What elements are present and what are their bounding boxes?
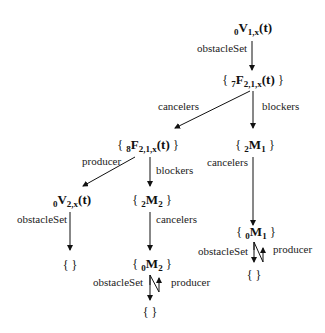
edge-m2_0-producer xyxy=(150,275,159,292)
subscript: 2,1,x xyxy=(244,79,262,89)
symbol: M xyxy=(249,137,261,152)
node-f7: { 7F2,1,x(t) } xyxy=(222,72,283,89)
label-f8-m2: blockers xyxy=(156,164,193,176)
empty-set: { } xyxy=(247,268,262,282)
brace-open: { xyxy=(132,257,138,271)
empty-set: { } xyxy=(63,258,78,272)
label-m2_0-producer: producer xyxy=(171,276,210,288)
node-m2-0: { 0M2 } xyxy=(132,256,171,273)
brace-close: } xyxy=(173,138,179,152)
node-m1-0: { 0M1 } xyxy=(236,224,275,241)
label-v2-empty: obstacleSet xyxy=(17,213,67,225)
suffix: (t) xyxy=(157,137,170,152)
symbol: M xyxy=(250,224,262,239)
edge-m1_0-producer xyxy=(254,242,263,262)
subscript: 2 xyxy=(158,199,163,209)
label-f8-v2: producer xyxy=(82,155,121,167)
label-m1_0-producer: producer xyxy=(273,243,312,255)
symbol: V xyxy=(57,192,66,207)
brace-open: { xyxy=(117,138,123,152)
node-empty-m1: { } xyxy=(247,268,262,283)
symbol: M xyxy=(146,192,158,207)
label-f7-f8: cancelers xyxy=(158,100,199,112)
subscript: 1 xyxy=(261,144,266,154)
label-m2-m2_0: cancelers xyxy=(156,213,197,225)
suffix: (t) xyxy=(259,20,272,35)
brace-close: } xyxy=(269,138,275,152)
brace-open: { xyxy=(236,225,242,239)
label-m1_0-empty: obstacleSet xyxy=(198,245,248,257)
label-f7-m1: blockers xyxy=(262,100,299,112)
brace-close: } xyxy=(278,73,284,87)
brace-close: } xyxy=(270,225,276,239)
brace-open: { xyxy=(132,193,138,207)
subscript: 2,x xyxy=(67,199,78,209)
node-v2: 0V2,x(t) xyxy=(53,192,91,209)
suffix: (t) xyxy=(262,72,275,87)
subscript: 2 xyxy=(158,263,163,273)
label-v1-f7: obstacleSet xyxy=(197,42,247,54)
brace-open: { xyxy=(222,73,228,87)
node-v1: 0V1,x(t) xyxy=(234,20,272,37)
empty-set: { } xyxy=(143,305,158,319)
suffix: (t) xyxy=(78,192,91,207)
label-m1-m1_0: cancelers xyxy=(207,156,248,168)
subscript: 2,1,x xyxy=(139,144,157,154)
brace-close: } xyxy=(166,193,172,207)
node-m2-2: { 2M2 } xyxy=(132,192,171,209)
symbol: V xyxy=(238,20,247,35)
node-m1-2: { 2M1 } xyxy=(235,137,274,154)
node-empty-v2: { } xyxy=(63,258,78,273)
subscript: 1,x xyxy=(248,27,259,37)
symbol: M xyxy=(146,256,158,271)
subscript: 1 xyxy=(262,231,267,241)
brace-close: } xyxy=(166,257,172,271)
node-f8: { 8F2,1,x(t) } xyxy=(117,137,178,154)
brace-open: { xyxy=(235,138,241,152)
node-empty-m2: { } xyxy=(143,305,158,320)
label-m2_0-empty: obstacleSet xyxy=(93,276,143,288)
